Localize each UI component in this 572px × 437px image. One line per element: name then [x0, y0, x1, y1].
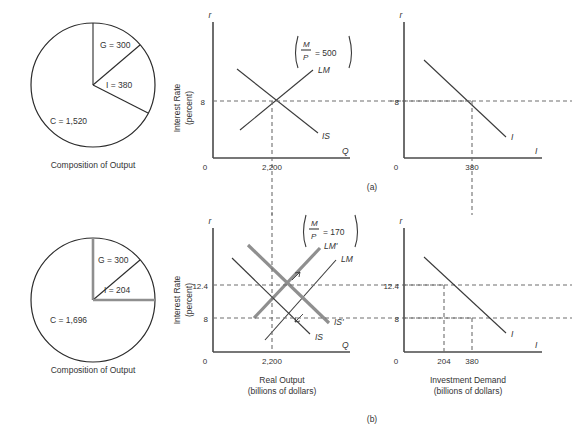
islm-top-xtick-2200: 2,200 [262, 163, 283, 172]
islm-top-origin-label: 0 [203, 163, 208, 172]
islm-figure: G = 300 I = 380 C = 1,520 Composition of… [0, 0, 572, 437]
pie-top-title: Composition of Output [51, 160, 136, 170]
pie-chart-bottom: G = 300 I = 204 C = 1,696 Composition of… [31, 238, 155, 375]
islm-bottom-x-axis-name: Q [342, 340, 349, 350]
inv-bottom-xtick-380: 380 [465, 357, 479, 366]
inv-bottom-x-axis-name: I [535, 340, 538, 350]
islm-bottom-xlabel: Real Output [259, 375, 305, 385]
islm-bottom-origin-label: 0 [203, 357, 208, 366]
islm-top-ytick-8: 8 [201, 98, 206, 107]
islm-bottom-lm-prime-label: LM' [324, 241, 338, 251]
inv-bottom-xlabel: Investment Demand [430, 375, 506, 385]
islm-top-paren-left [296, 36, 299, 68]
islm-bottom-lm-label: LM [341, 254, 354, 264]
islm-bottom-is-label: IS [315, 332, 323, 342]
inv-bottom-demand-curve [424, 257, 506, 333]
islm-bottom-xtick-2200: 2,200 [262, 357, 283, 366]
islm-top-ylabel: Interest Rate [172, 83, 182, 132]
inv-top-demand-curve [424, 60, 506, 137]
inv-bottom-curve-label: I [511, 329, 514, 339]
inv-top-y-axis-name: r [400, 10, 404, 20]
islm-bottom-annotation-num: M [311, 219, 318, 228]
islm-bottom-y-axis-name: r [209, 216, 213, 226]
islm-top-annotation-num: M [303, 40, 310, 49]
islm-top-ylabel-sub: (percent) [184, 91, 194, 125]
inv-bottom-xlabel-sub: (billions of dollars) [434, 386, 503, 396]
islm-bottom-ytick-8: 8 [204, 315, 209, 324]
islm-top-y-axis-name: r [209, 10, 213, 20]
inv-top-curve-label: I [511, 132, 514, 142]
islm-bottom-ytick-124: 12.4 [192, 282, 208, 291]
inv-top-origin-label: 0 [394, 163, 399, 172]
inv-bottom-xtick-204: 204 [437, 357, 451, 366]
islm-chart-bottom: Interest Rate (percent) r Q 0 M P = 170 … [172, 212, 572, 396]
islm-top-lm-label: LM [318, 65, 331, 75]
investment-chart-top: r I 0 I 8 380 [390, 10, 542, 215]
inv-bottom-ytick-8: 8 [395, 315, 400, 324]
inv-bottom-y-axis-name: r [400, 216, 404, 226]
islm-bottom-annotation-eq: = 170 [323, 227, 345, 237]
inv-top-x-axis-name: I [535, 146, 538, 156]
pie-bottom-title: Composition of Output [51, 365, 136, 375]
islm-top-x-axis-name: Q [342, 146, 349, 156]
islm-bottom-paren-left [304, 215, 307, 247]
pie-top-slice-g-label: G = 300 [100, 40, 131, 50]
pie-top-divider-g-i [93, 45, 140, 85]
pie-bottom-slice-c-label: C = 1,696 [50, 315, 87, 325]
islm-top-is-label: IS [322, 131, 330, 141]
pie-top-slice-i-label: I = 380 [106, 80, 133, 90]
inv-bottom-ytick-124: 12.4 [383, 282, 399, 291]
islm-top-annotation-eq: = 500 [315, 48, 337, 58]
islm-top-annotation-den: P [303, 53, 309, 62]
islm-bottom-xlabel-sub: (billions of dollars) [248, 386, 317, 396]
islm-bottom-paren-right [355, 215, 358, 247]
inv-top-ytick-8: 8 [395, 98, 400, 107]
inv-bottom-origin-label: 0 [394, 357, 399, 366]
pie-bottom-slice-g-label: G = 300 [98, 255, 129, 265]
islm-bottom-ylabel: Interest Rate [172, 275, 182, 324]
panel-label-a: (a) [367, 182, 378, 192]
investment-chart-bottom: r I 0 I 12.4 8 204 380 Investment Demand… [383, 216, 542, 396]
pie-chart-top: G = 300 I = 380 C = 1,520 Composition of… [31, 23, 155, 170]
pie-top-slice-c-label: C = 1,520 [50, 116, 87, 126]
panel-label-b: (b) [367, 414, 378, 424]
islm-top-paren-right [349, 36, 352, 68]
islm-bottom-annotation-den: P [311, 232, 317, 241]
inv-top-xtick-380: 380 [465, 163, 479, 172]
pie-bottom-slice-i-label: I = 204 [104, 285, 131, 295]
